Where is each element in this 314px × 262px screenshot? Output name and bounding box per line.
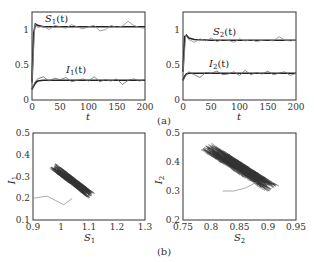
ytick: 0.5 [15,60,30,70]
xtick: 0.8 [204,222,219,232]
annotation-S2: S2(t) [213,26,236,39]
series-line [32,24,145,82]
ytick: 1 [23,25,29,35]
series-line [32,77,145,90]
x-axis-label: t [86,111,91,122]
axes-frame [183,133,296,220]
x-axis-label: t [237,111,242,122]
series-group [183,35,296,80]
xtick: 0.9 [26,222,41,232]
series-group [32,21,145,89]
xtick: 1.1 [82,222,96,232]
xtick: 1.2 [110,222,124,232]
ytick: 1 [174,25,180,35]
xtick: 50 [205,102,217,112]
xtick: 150 [108,102,125,112]
x-axis-label: S2 [234,232,245,245]
transient-path [33,196,72,205]
series-line [183,70,296,80]
transient-path [223,182,257,191]
xtick: 50 [54,102,66,112]
annotation-I1: I1(t) [65,64,86,77]
plot-b-right: 0.2 0.3 0.4 0.5 0.75 0.8 0.85 0.9 0.95 S… [153,128,306,245]
series-line [183,73,296,80]
axes-frame [183,12,296,100]
xtick: 200 [287,102,304,112]
plot-a-right: 0 0.5 1 0 50 100 150 200 t S2(t) I2(t) [166,12,305,122]
ytick: 0.2 [16,193,30,203]
ytick: 0.5 [166,60,181,70]
xtick: 0.9 [261,222,276,232]
axes-frame [32,12,145,100]
panel-label-b: (b) [157,246,171,257]
ytick: 0.3 [166,186,181,196]
xtick: 0 [180,102,186,112]
xtick: 1 [58,222,64,232]
ytick: 0.5 [166,128,181,138]
annotation-S1: S1(t) [45,13,68,26]
scatter-cloud [201,143,279,192]
ytick: 0.4 [166,157,181,167]
panel-label-a: (a) [157,115,171,126]
xtick: 0.85 [229,222,249,232]
y-axis-label: I1 [6,176,19,185]
axes-frame [33,133,145,220]
y-axis-label: I2 [153,176,166,185]
x-axis-label: S1 [84,232,95,245]
trajectory [50,164,95,199]
xtick: 0.75 [173,222,193,232]
series-line [32,21,145,82]
series-line [32,80,145,89]
xtick: 200 [136,102,153,112]
trajectory [201,143,279,192]
xtick: 0 [29,102,35,112]
plot-a-left: 0 0.5 1 0 50 100 150 200 t S1(t) I1(t) [15,12,154,122]
plot-b-left: 0.1 0.2 0.3 0.4 0.5 0.9 1 1.1 1.2 1.3 S1… [6,128,152,245]
figure: 0 0.5 1 0 50 100 150 200 t S1(t) I1(t) 0… [0,0,314,262]
ytick: 0.4 [16,150,31,160]
series-line [183,35,296,72]
xtick: 150 [259,102,276,112]
xtick: 1.3 [138,222,153,232]
scatter-cloud [33,164,95,205]
xtick: 0.95 [286,222,306,232]
ytick: 0.5 [16,128,31,138]
annotation-I2: I2(t) [208,58,229,71]
